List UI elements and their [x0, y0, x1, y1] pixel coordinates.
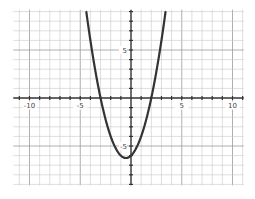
x-tick-label: -10 [24, 102, 35, 110]
y-tick-label: -5 [120, 143, 127, 151]
x-tick-label: -5 [77, 102, 84, 110]
x-tick-label: 10 [228, 102, 237, 110]
graph-plot: -10-55105-5 [0, 0, 255, 199]
parabola-curve [86, 12, 165, 158]
curve [86, 12, 165, 158]
x-tick-label: 5 [180, 102, 184, 110]
y-tick-label: 5 [123, 47, 127, 55]
axes [13, 10, 243, 186]
